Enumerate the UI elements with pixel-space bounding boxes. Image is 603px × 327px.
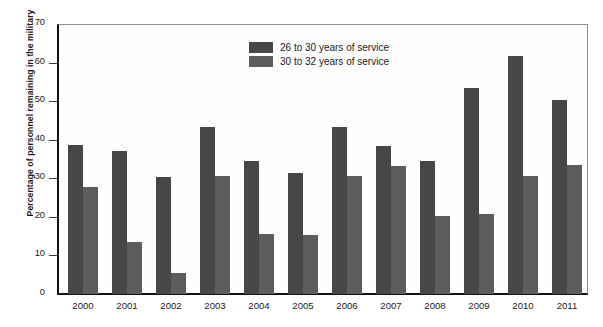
y-axis-tick-label: 0	[40, 287, 45, 297]
y-axis-title: Percentage of personnel remaining in the…	[25, 0, 35, 238]
x-axis-tick-label: 2000	[60, 300, 106, 311]
y-axis-tick-label: 70	[35, 17, 45, 27]
x-axis-tick-label: 2008	[412, 300, 458, 311]
x-axis-tick-label: 2005	[280, 300, 326, 311]
bar	[523, 176, 538, 294]
bar-group	[156, 24, 186, 294]
legend-item: 30 to 32 years of service	[249, 55, 389, 67]
y-axis-tick-label: 10	[35, 248, 45, 258]
bar	[303, 235, 318, 294]
bar	[68, 145, 83, 294]
y-axis-tick-label: 40	[35, 133, 45, 143]
x-axis-tick-label: 2003	[192, 300, 238, 311]
bar	[112, 151, 127, 294]
x-axis-tick-label: 2006	[324, 300, 370, 311]
bar	[288, 173, 303, 294]
bar	[464, 88, 479, 294]
bar	[171, 273, 186, 294]
y-axis-tick-label: 50	[35, 94, 45, 104]
y-axis-tick-mark	[49, 178, 57, 179]
y-axis-tick-mark	[49, 101, 57, 102]
bar	[127, 242, 142, 294]
bar	[435, 216, 450, 294]
legend-label: 26 to 30 years of service	[280, 42, 389, 53]
x-axis-tick-label: 2009	[456, 300, 502, 311]
bar	[156, 177, 171, 294]
x-axis-tick-label: 2002	[148, 300, 194, 311]
bar	[83, 187, 98, 294]
bar	[347, 176, 362, 294]
bar	[420, 161, 435, 294]
bar	[391, 166, 406, 294]
chart-legend: 26 to 30 years of service30 to 32 years …	[249, 41, 389, 67]
bar-group	[508, 24, 538, 294]
y-axis-tick-label: 30	[35, 171, 45, 181]
bar-group	[200, 24, 230, 294]
bar	[244, 161, 259, 294]
x-axis-tick-label: 2007	[368, 300, 414, 311]
bar	[508, 56, 523, 294]
bar-group	[420, 24, 450, 294]
bar-group	[552, 24, 582, 294]
y-axis-tick-mark	[49, 63, 57, 64]
bar	[567, 165, 582, 294]
bar-group	[464, 24, 494, 294]
bar-chart: Percentage of personnel remaining in the…	[0, 0, 603, 327]
bar	[479, 214, 494, 294]
legend-swatch	[249, 42, 273, 53]
x-axis-tick-label: 2001	[104, 300, 150, 311]
y-axis-tick-mark	[49, 217, 57, 218]
bar	[376, 146, 391, 294]
y-axis-tick-label: 60	[35, 56, 45, 66]
x-axis-tick-label: 2010	[500, 300, 546, 311]
legend-swatch	[249, 56, 273, 67]
bar	[215, 176, 230, 294]
bar	[259, 234, 274, 294]
bar-group	[68, 24, 98, 294]
y-axis-tick-mark	[49, 140, 57, 141]
bar	[552, 100, 567, 294]
bar-group	[112, 24, 142, 294]
y-axis-tick-label: 20	[35, 210, 45, 220]
legend-item: 26 to 30 years of service	[249, 41, 389, 53]
x-axis-tick-label: 2004	[236, 300, 282, 311]
bar	[200, 127, 215, 294]
y-axis-tick-mark	[49, 255, 57, 256]
legend-label: 30 to 32 years of service	[280, 56, 389, 67]
x-axis-tick-label: 2011	[544, 300, 590, 311]
bar	[332, 127, 347, 294]
